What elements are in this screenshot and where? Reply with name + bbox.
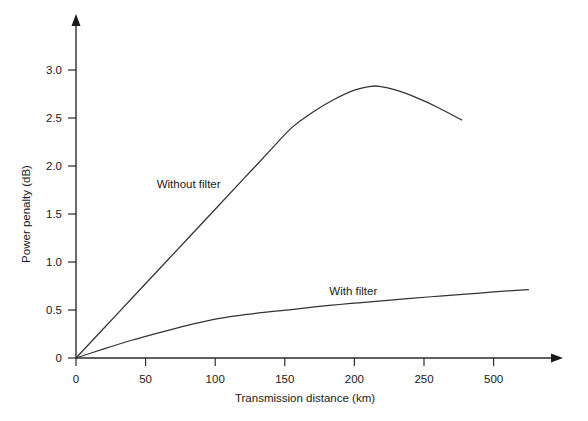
y-tick-label: 2.0 bbox=[46, 160, 62, 172]
x-tick-label: 250 bbox=[414, 373, 433, 385]
series-annotation-with-filter: With filter bbox=[329, 285, 377, 297]
x-axis-title: Transmission distance (km) bbox=[235, 392, 375, 404]
series-line-with-filter bbox=[76, 290, 528, 358]
x-tick-label: 500 bbox=[484, 373, 503, 385]
y-tick-label: 1.0 bbox=[46, 256, 62, 268]
x-tick-label: 50 bbox=[139, 373, 152, 385]
y-tick-label: 1.5 bbox=[46, 208, 62, 220]
y-axis bbox=[72, 14, 81, 358]
x-tick-label: 100 bbox=[206, 373, 225, 385]
y-tick-label: 2.5 bbox=[46, 112, 62, 124]
x-tick-label: 200 bbox=[345, 373, 364, 385]
y-axis-arrow-icon bbox=[72, 14, 81, 26]
x-axis bbox=[76, 354, 563, 363]
series-line-without-filter bbox=[76, 86, 462, 358]
line-chart-canvas: 0 0.5 1.0 1.5 2.0 2.5 3.0 0 50 100 150 2… bbox=[0, 0, 588, 421]
y-tick-label: 0 bbox=[56, 352, 62, 364]
x-tick-label: 150 bbox=[275, 373, 294, 385]
y-axis-title: Power penalty (dB) bbox=[20, 165, 32, 263]
x-axis-ticks bbox=[76, 358, 494, 366]
x-axis-tick-labels: 0 50 100 150 200 250 500 bbox=[73, 373, 503, 385]
series-annotation-without-filter: Without filter bbox=[157, 178, 221, 190]
y-axis-ticks bbox=[68, 70, 76, 358]
chart-figure: 0 0.5 1.0 1.5 2.0 2.5 3.0 0 50 100 150 2… bbox=[0, 0, 588, 421]
x-axis-arrow-icon bbox=[551, 354, 563, 363]
y-tick-label: 3.0 bbox=[46, 64, 62, 76]
x-tick-label: 0 bbox=[73, 373, 79, 385]
y-axis-tick-labels: 0 0.5 1.0 1.5 2.0 2.5 3.0 bbox=[46, 64, 62, 364]
y-tick-label: 0.5 bbox=[46, 304, 62, 316]
